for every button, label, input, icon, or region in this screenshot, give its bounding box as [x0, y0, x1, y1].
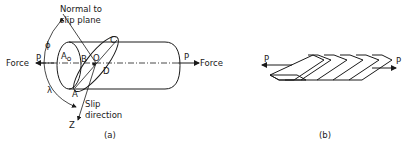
p-label-right: P — [184, 52, 189, 62]
lambda-label: λ — [47, 85, 52, 95]
slab-4 — [317, 55, 363, 80]
force-label-right: Force — [200, 58, 223, 68]
force-label-left: Force — [6, 58, 29, 68]
area-label: Ao — [61, 51, 72, 63]
slip-diagram: Normal to slip plane Force P P Force Ao … — [0, 0, 410, 149]
p-label-left: P — [36, 53, 41, 63]
point-o-label: O — [93, 53, 100, 63]
caption-a: (a) — [104, 130, 116, 140]
figure-b: P P (b) — [262, 54, 401, 140]
point-d-label: D — [103, 66, 110, 76]
point-b-label: B — [81, 54, 87, 64]
normal-label-line1: Normal to — [60, 4, 102, 14]
slab-1 — [270, 55, 324, 80]
z-axis-label: Z — [69, 120, 75, 130]
cylinder-left-face — [57, 42, 81, 89]
point-a-label: A — [72, 89, 78, 99]
caption-b: (b) — [319, 130, 331, 140]
slip-label-line2: direction — [85, 110, 122, 120]
normal-label-line2: slip plane — [60, 15, 101, 25]
p-label-left-b: P — [264, 54, 269, 64]
slab-2 — [285, 55, 331, 80]
figure-a: Normal to slip plane Force P P Force Ao … — [6, 4, 223, 140]
slip-label-line1: Slip — [85, 99, 101, 109]
phi-label: ϕ — [45, 40, 51, 50]
p-label-right-b: P — [396, 56, 401, 66]
point-c-label: C — [110, 35, 116, 45]
cylinder-right-end — [165, 42, 180, 89]
slab-3 — [301, 55, 347, 80]
